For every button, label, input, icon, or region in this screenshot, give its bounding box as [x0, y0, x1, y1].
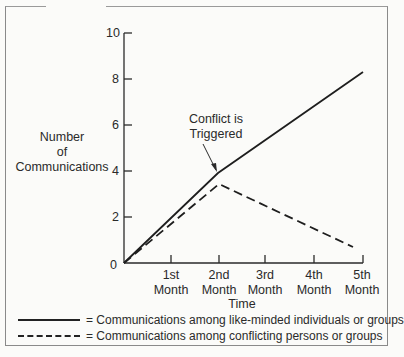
- solid-line-swatch: [18, 319, 80, 321]
- annotation-arrow: [203, 144, 217, 172]
- legend-entry-dashed: = Communications among conflicting perso…: [18, 329, 382, 343]
- y-tick-10: 10: [106, 26, 120, 41]
- origin-label: 0: [110, 258, 117, 273]
- x-tick-2nd-month: 2nd Month: [199, 268, 239, 298]
- legend-entry-solid: = Communications among like-minded indiv…: [18, 313, 404, 327]
- x-tick-5th-month: 5th Month: [342, 268, 382, 298]
- y-tick-8: 8: [112, 72, 119, 87]
- y-tick-6: 6: [112, 118, 119, 133]
- y-axis-label: Number of Communications: [12, 130, 112, 175]
- x-tick-1st-month: 1st Month: [151, 268, 191, 298]
- dashed-line-swatch: [18, 335, 80, 337]
- x-axis-label: Time: [222, 297, 262, 312]
- annotation-conflict-triggered: Conflict is Triggered: [176, 112, 256, 142]
- series-conflicting: [124, 184, 353, 263]
- x-tick-4th-month: 4th Month: [294, 268, 334, 298]
- x-tick-3rd-month: 3rd Month: [245, 268, 285, 298]
- y-tick-2: 2: [112, 210, 119, 225]
- y-tick-4: 4: [112, 164, 119, 179]
